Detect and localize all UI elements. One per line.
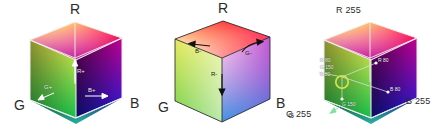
r-axis-max-label: R 255	[336, 6, 361, 15]
g-minus-arrow-label: G-	[245, 50, 252, 56]
figure-canvas: R G B R+ G+ B+	[0, 0, 446, 136]
rgb-cube-graphic	[0, 0, 149, 136]
sample-r-value-label: R 80	[378, 58, 389, 63]
r-axis-label: R	[218, 1, 228, 15]
sample-coord-stack-label: R 80	[320, 58, 331, 63]
b-axis-max-label: B 255	[406, 97, 431, 106]
rgb-cube-graphic	[296, 0, 446, 136]
g-axis-label: G	[14, 98, 25, 112]
sample-g-value-label: G 150	[342, 102, 356, 107]
g-axis-arrow	[330, 106, 341, 113]
g-axis-label: G	[158, 100, 169, 114]
cube-panel-negative-axes: R G B G B- G- R-	[148, 0, 297, 136]
rgb-cube-graphic	[148, 0, 297, 136]
sample-coord-stack-label-2: G 150	[320, 65, 334, 70]
r-axis-label: R	[70, 2, 80, 16]
sample-coord-stack-label-3: B 80	[320, 72, 330, 77]
b-axis-label: B	[130, 96, 139, 110]
g-axis-max-label: G 255	[286, 110, 312, 119]
r-plus-arrow-label: R+	[77, 68, 85, 74]
sample-b-value-label: B 80	[390, 87, 400, 92]
b-axis-label: B	[276, 96, 285, 110]
cube-panel-positive-axes: R G B R+ G+ B+	[0, 0, 149, 136]
b-plus-arrow-label: B+	[88, 87, 96, 93]
b-minus-arrow-label: B-	[195, 48, 201, 54]
g-plus-arrow-label: G+	[44, 84, 52, 90]
r-minus-arrow-label: R-	[211, 71, 217, 77]
cube-panel-sample-point: R 255 G 255 B 255 R 80 B 80 G 150 R 80 G…	[296, 0, 445, 136]
